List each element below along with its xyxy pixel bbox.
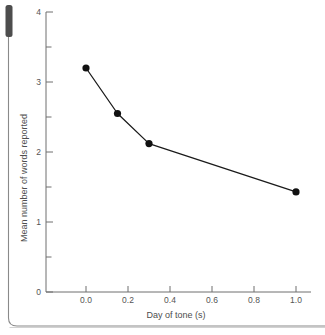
x-tick-label-1: 0.2 (122, 295, 134, 305)
x-tick-label-4: 0.8 (248, 295, 260, 305)
y-tick-label-3: 3 (36, 77, 41, 87)
data-points (82, 64, 299, 195)
y-axis-title: Mean number of words reported (19, 114, 29, 242)
data-point-0 (82, 64, 89, 71)
page-tab-marker (6, 5, 13, 37)
x-tick-label-3: 0.6 (206, 295, 218, 305)
figure-root: 0 1 2 3 4 0.0 0.2 0.4 0.6 0.8 1.0 Day of… (0, 0, 325, 335)
y-tick-label-2: 2 (36, 147, 41, 157)
y-tick-label-4: 4 (36, 7, 41, 17)
x-tick-labels: 0.0 0.2 0.4 0.6 0.8 1.0 (80, 295, 302, 305)
y-tick-labels: 0 1 2 3 4 (36, 7, 41, 297)
y-axis-major-ticks (46, 12, 53, 292)
x-tick-label-0: 0.0 (80, 295, 92, 305)
x-tick-label-5: 1.0 (290, 295, 302, 305)
data-point-1 (114, 110, 121, 117)
data-line (86, 68, 296, 192)
x-tick-label-2: 0.4 (164, 295, 176, 305)
y-tick-label-0: 0 (36, 287, 41, 297)
data-point-3 (292, 188, 299, 195)
y-tick-label-1: 1 (36, 217, 41, 227)
x-axis-ticks (86, 286, 296, 292)
axis-lines (46, 12, 311, 292)
page-frame-border (9, 37, 325, 326)
line-chart: 0 1 2 3 4 0.0 0.2 0.4 0.6 0.8 1.0 Day of… (0, 0, 325, 335)
data-point-2 (145, 140, 152, 147)
x-axis-title: Day of tone (s) (146, 310, 205, 320)
